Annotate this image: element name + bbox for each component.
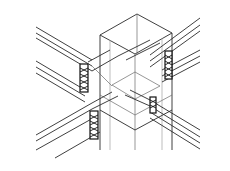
plate-upper-right bbox=[165, 51, 172, 79]
plate-lower-right bbox=[150, 97, 156, 113]
plate-upper-left bbox=[80, 64, 88, 92]
plate-lower-left bbox=[90, 111, 98, 139]
beam-upper-right bbox=[118, 18, 200, 82]
beam-lower-left bbox=[36, 92, 118, 158]
column bbox=[100, 14, 172, 150]
joint-drawing bbox=[0, 0, 230, 171]
beam-lower-right bbox=[125, 90, 200, 149]
